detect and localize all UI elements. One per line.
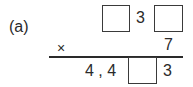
product-digit-ones: 3 <box>163 63 172 79</box>
sum-line <box>49 56 183 58</box>
multiplicand-blank-hundreds[interactable] <box>102 5 130 32</box>
multiplicand-blank-ones[interactable] <box>154 5 183 32</box>
product-prefix: 4 , 4 <box>85 63 116 79</box>
multiplier-digit: 7 <box>164 37 173 53</box>
multiply-operator: × <box>57 40 65 56</box>
problem-label: (a) <box>9 19 29 35</box>
product-blank-tens[interactable] <box>128 57 157 84</box>
multiplicand-digit-tens: 3 <box>136 10 145 26</box>
